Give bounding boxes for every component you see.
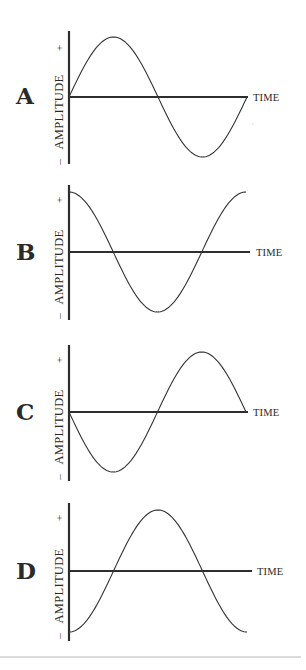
amplitude-label: AMPLITUDE [52,548,66,623]
amplitude-label: AMPLITUDE [52,229,66,304]
time-label: TIME [256,247,282,258]
panel-letter: A [15,82,35,109]
panel-d: D AMPLITUDE + – TIME [16,503,283,641]
plus-sign: + [53,515,65,521]
minus-sign: – [53,313,65,320]
minus-sign: – [53,159,65,166]
amplitude-label: AMPLITUDE [52,74,66,149]
panel-letter: C [16,398,34,425]
amplitude-label: AMPLITUDE [52,389,66,464]
plus-sign: + [53,357,65,363]
panel-b: B AMPLITUDE + – TIME [16,185,282,320]
time-label: TIME [253,92,279,103]
plus-sign: + [53,45,65,51]
speck [252,123,253,124]
time-label: TIME [253,407,279,418]
time-label: TIME [257,566,283,577]
plus-sign: + [53,197,65,203]
panel-letter: D [16,557,36,584]
minus-sign: – [53,474,65,481]
minus-sign: – [53,633,65,640]
panel-c: C AMPLITUDE + – TIME [16,345,279,481]
waveform-figure: A AMPLITUDE + – TIME B AMPLITUDE + – TIM… [0,0,306,670]
panel-a: A AMPLITUDE + – TIME [15,31,279,166]
panel-letter: B [16,238,35,265]
